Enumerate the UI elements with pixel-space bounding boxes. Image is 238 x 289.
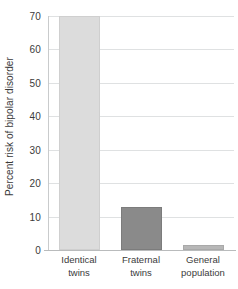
bar-fraternal-twins (121, 207, 162, 250)
x-label-line: population (172, 267, 234, 280)
x-label-identical-twins: Identicaltwins (48, 254, 110, 279)
y-axis-line (48, 16, 49, 251)
y-tick-label-20: 20 (4, 178, 48, 189)
y-tick-label-40: 40 (4, 111, 48, 122)
x-label-general-population: Generalpopulation (172, 254, 234, 279)
plot-area (48, 16, 234, 250)
y-tick-label-50: 50 (4, 77, 48, 88)
x-label-fraternal-twins: Fraternaltwins (110, 254, 172, 279)
y-axis-tick-labels: 010203040506070 (0, 16, 48, 250)
x-axis-line (44, 250, 236, 251)
x-label-line: Identical (48, 254, 110, 267)
y-tick-label-60: 60 (4, 44, 48, 55)
y-tick-label-10: 10 (4, 211, 48, 222)
bar-identical-twins (59, 16, 100, 250)
bipolar-risk-bar-chart: Percent risk of bipolar disorder 0102030… (0, 0, 238, 289)
y-tick-label-0: 0 (4, 245, 48, 256)
x-axis-category-labels: IdenticaltwinsFraternaltwinsGeneralpopul… (48, 254, 234, 288)
y-tick-label-70: 70 (4, 11, 48, 22)
x-label-line: twins (48, 267, 110, 280)
x-label-line: Fraternal (110, 254, 172, 267)
x-label-line: General (172, 254, 234, 267)
x-label-line: twins (110, 267, 172, 280)
y-tick-label-30: 30 (4, 144, 48, 155)
